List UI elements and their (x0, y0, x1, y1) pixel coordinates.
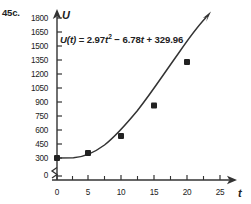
x-tick-marks-major (57, 175, 220, 180)
y-tick-marks (57, 18, 62, 176)
fitted-curve (57, 18, 206, 159)
figure-container: 45c. U t U(t) = 2.97t2 − 6.78t + 329.96 … (0, 0, 251, 204)
data-point (54, 155, 60, 161)
data-point (184, 59, 190, 65)
data-point (151, 103, 157, 109)
data-point-markers (54, 59, 190, 161)
data-point (118, 133, 124, 139)
data-point (85, 150, 91, 156)
plot-svg (0, 0, 251, 204)
y-axis-break-icon (52, 168, 57, 179)
